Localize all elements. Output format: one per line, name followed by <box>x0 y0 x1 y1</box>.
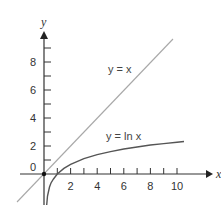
x-tick-label: 6 <box>121 180 127 192</box>
y-tick-label: 8 <box>30 56 36 68</box>
x-ticks <box>57 168 177 174</box>
y-tick-label: 4 <box>30 112 36 124</box>
y-axis-arrow-icon <box>40 31 48 39</box>
y-axis-label: y <box>40 15 47 29</box>
line-y-equals-x <box>17 39 173 202</box>
origin-label: 0 <box>30 161 36 173</box>
x-tick-label: 2 <box>68 180 74 192</box>
x-tick-label: 8 <box>147 180 153 192</box>
y-tick-label: 2 <box>30 140 36 152</box>
y-ticks <box>44 48 51 160</box>
x-tick-label: 10 <box>171 180 183 192</box>
y-tick-label: 6 <box>30 84 36 96</box>
origin-dot <box>42 172 46 176</box>
x-axis-arrow-icon <box>206 170 213 178</box>
x-tick-label: 4 <box>94 180 100 192</box>
label-y-ln-x: y = ln x <box>106 130 142 142</box>
x-axis-label: x <box>215 167 221 181</box>
label-y-equals-x: y = x <box>108 63 132 75</box>
chart-canvas: 2 4 6 8 10 2 4 6 8 0 x y y = x y = ln x <box>0 0 221 210</box>
